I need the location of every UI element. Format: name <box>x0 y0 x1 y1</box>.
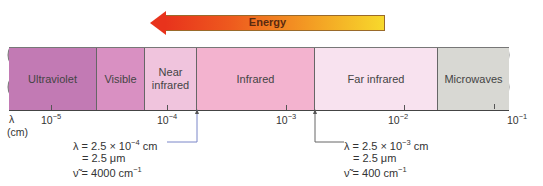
annotation-near-ir-boundary: λ = 2.5 × 10−4 cm = 2.5 μm ν̃ = 4000 cm−… <box>73 137 157 179</box>
annotation-far-ir-boundary: λ = 2.5 × 10−3 cm = 2.5 μm ν̃ = 400 cm−1 <box>344 137 428 179</box>
